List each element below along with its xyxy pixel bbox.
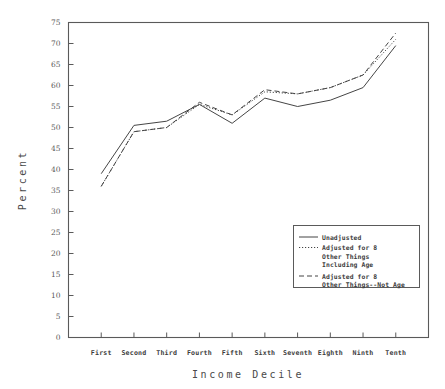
- x-tick-label-fifth: Fifth: [222, 349, 243, 357]
- series-group: [101, 33, 396, 186]
- y-tick-label-15: 15: [51, 270, 61, 279]
- x-axis: FirstSecondThirdFourthFifthSixthSeventhE…: [91, 333, 406, 357]
- y-tick-label-55: 55: [51, 102, 61, 111]
- x-tick-label-eighth: Eighth: [318, 349, 343, 357]
- y-tick-label-20: 20: [51, 249, 61, 258]
- y-tick-label-70: 70: [51, 39, 61, 48]
- x-tick-label-fourth: Fourth: [187, 349, 212, 357]
- y-tick-label-35: 35: [51, 186, 61, 195]
- legend-label-adjusted-including-age-line1: Adjusted for 8: [322, 244, 377, 252]
- x-tick-label-seventh: Seventh: [283, 349, 312, 357]
- y-tick-label-10: 10: [51, 291, 61, 300]
- x-tick-label-second: Second: [121, 349, 146, 357]
- y-axis-title: Percent: [17, 150, 28, 210]
- legend-label-adjusted-not-age-line1: Adjusted for 8: [322, 273, 377, 281]
- y-tick-label-75: 75: [51, 18, 61, 27]
- y-tick-label-50: 50: [51, 123, 61, 132]
- legend-label-unadjusted-line1: Unadjusted: [322, 234, 362, 242]
- x-tick-label-sixth: Sixth: [254, 349, 275, 357]
- legend-label-adjusted-including-age-line2: Other Things: [322, 253, 369, 261]
- chart-figure: 051015202530354045505560657075 FirstSeco…: [0, 0, 445, 389]
- x-tick-label-first: First: [91, 349, 112, 357]
- series-adjusted-for-8-other-things-not-age: [101, 33, 396, 186]
- series-unadjusted: [101, 46, 396, 174]
- y-tick-label-45: 45: [51, 144, 61, 153]
- plot-frame: [69, 23, 429, 338]
- y-axis: 051015202530354045505560657075: [51, 18, 74, 342]
- y-tick-label-30: 30: [51, 207, 61, 216]
- y-tick-label-60: 60: [51, 81, 61, 90]
- y-tick-label-0: 0: [56, 333, 61, 342]
- series-adjusted-for-8-other-things-including-age: [101, 39, 396, 186]
- x-axis-title: Income Decile: [192, 369, 304, 380]
- y-tick-label-5: 5: [56, 312, 61, 321]
- chart-legend: Unadjusted Adjusted for 8 Other Things I…: [294, 226, 420, 290]
- x-tick-label-ninth: Ninth: [353, 349, 374, 357]
- y-tick-label-25: 25: [51, 228, 61, 237]
- legend-label-adjusted-including-age-line3: Including Age: [322, 261, 373, 269]
- y-tick-label-40: 40: [51, 165, 61, 174]
- x-tick-label-third: Third: [156, 349, 177, 357]
- legend-label-adjusted-not-age-line2: Other Things--Not Age: [322, 281, 405, 289]
- x-tick-label-tenth: Tenth: [385, 349, 406, 357]
- y-tick-label-65: 65: [51, 60, 61, 69]
- income-decile-line-chart: 051015202530354045505560657075 FirstSeco…: [0, 0, 445, 389]
